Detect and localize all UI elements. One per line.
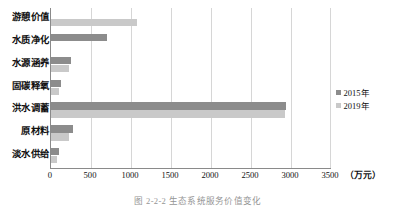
- y-axis-tick-label: 洪水调蓄: [1, 103, 49, 113]
- chart-figure: 游憩价值 水质净化 水源涵养 固碳释氧 洪水调蓄 原材料 淡水供给: [0, 0, 396, 213]
- bar-2019: [51, 65, 69, 72]
- bar-2019: [51, 133, 69, 140]
- x-axis-labels: 0 500 1000 1500 2000 2500 3000 3500: [0, 170, 396, 184]
- bar-2019: [51, 110, 285, 117]
- x-axis-tick-label: 2500: [241, 170, 258, 181]
- bar-2015: [51, 102, 286, 109]
- x-axis-tick-label: 3500: [321, 170, 338, 181]
- bar-2015: [51, 57, 71, 64]
- x-axis-tick-label: 0: [48, 170, 52, 181]
- x-axis-tick-label: 2000: [201, 170, 218, 181]
- bar-group: [51, 77, 331, 100]
- bar-2015: [51, 125, 73, 132]
- y-axis-tick-label: 水质净化: [1, 35, 49, 45]
- y-axis-tick-label: 原材料: [1, 126, 49, 136]
- y-axis-tick-label: 固碳释氧: [1, 81, 49, 91]
- bar-2015: [51, 80, 61, 87]
- x-axis-tick-label: 3000: [281, 170, 298, 181]
- bar-2019: [51, 19, 137, 26]
- x-axis-tick-label: 1000: [121, 170, 138, 181]
- x-axis-tick-label: 1500: [161, 170, 178, 181]
- y-axis-tick-label: 水源涵养: [1, 58, 49, 68]
- figure-caption: 图 2-2-2 生态系统服务价值变化: [0, 196, 396, 207]
- legend-item-2019[interactable]: 2019年: [336, 99, 394, 112]
- bar-group: [51, 31, 331, 54]
- bar-2019: [51, 88, 59, 95]
- legend-swatch-icon: [336, 90, 341, 95]
- bar-group: [51, 8, 331, 31]
- legend-label: 2015年: [344, 88, 370, 98]
- chart-legend: 2015年 2019年: [336, 86, 394, 112]
- plot-area: [50, 8, 331, 169]
- y-axis-tick-label: 游憩价值: [1, 12, 49, 22]
- bar-group: [51, 122, 331, 145]
- x-axis-unit-label: （万元）: [345, 170, 381, 181]
- legend-swatch-icon: [336, 103, 341, 108]
- y-axis-labels: 游憩价值 水质净化 水源涵养 固碳释氧 洪水调蓄 原材料 淡水供给: [0, 8, 49, 168]
- legend-item-2015[interactable]: 2015年: [336, 86, 394, 99]
- bar-group: [51, 145, 331, 168]
- y-axis-tick-label: 淡水供给: [1, 149, 49, 159]
- bar-2015: [51, 34, 107, 41]
- bar-2019: [51, 156, 57, 163]
- bar-group: [51, 99, 331, 122]
- x-axis-tick-label: 500: [84, 170, 97, 181]
- legend-label: 2019年: [344, 101, 370, 111]
- bar-2015: [51, 148, 59, 155]
- bar-group: [51, 54, 331, 77]
